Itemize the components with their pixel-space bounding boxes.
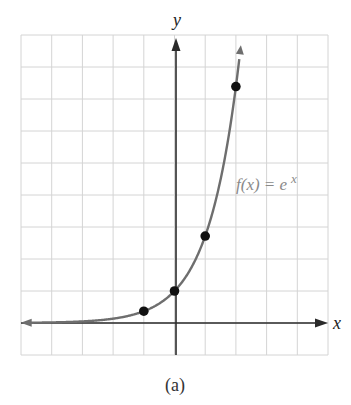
data-point [170, 286, 180, 296]
curve-top-arrow-icon [236, 45, 244, 54]
data-point [200, 231, 210, 241]
function-label-exponent: x [290, 171, 297, 186]
x-axis-label: x [332, 313, 341, 333]
function-label: f(x) = ex [236, 171, 297, 194]
x-axis-arrow-icon [315, 319, 328, 328]
points-layer [139, 82, 241, 316]
exponential-graph: y x f(x) = ex (a) [0, 0, 351, 405]
y-axis-label: y [171, 10, 181, 30]
curve-layer [21, 45, 244, 326]
data-point [139, 306, 149, 316]
grid [21, 35, 328, 355]
function-label-main: f(x) = e [236, 175, 288, 194]
curve-left-arrow-icon [21, 319, 32, 327]
data-point [231, 82, 241, 92]
figure-caption: (a) [165, 375, 185, 396]
y-axis-arrow-icon [172, 38, 181, 51]
